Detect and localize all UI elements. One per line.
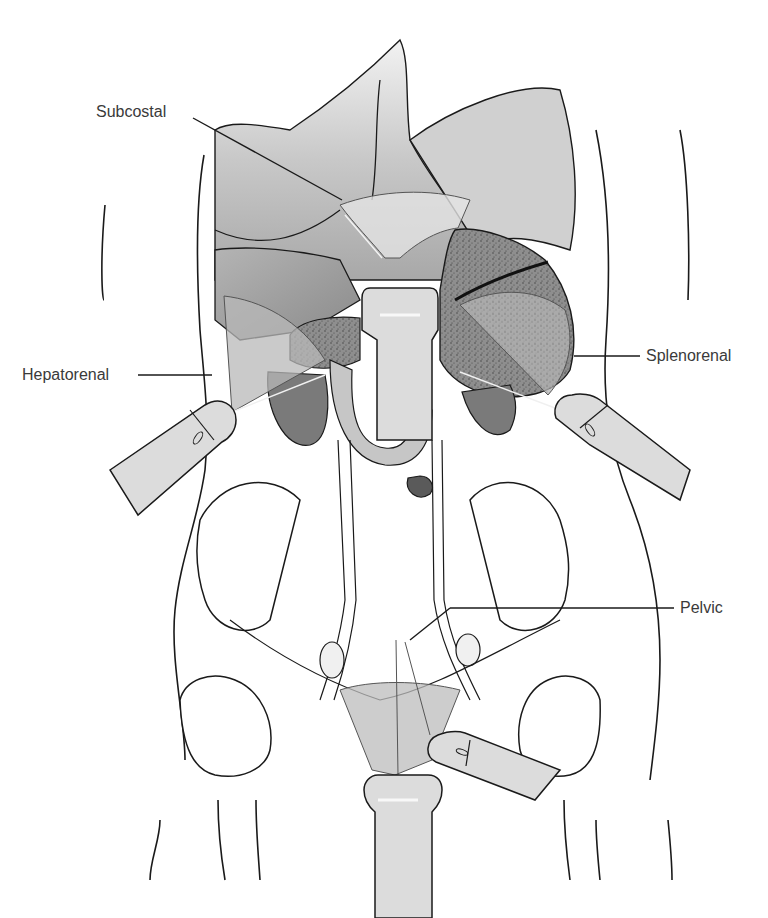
probe-central-lower xyxy=(364,775,442,918)
label-splenorenal: Splenorenal xyxy=(646,348,731,364)
anatomical-diagram: Subcostal Hepatorenal Splenorenal Pelvic xyxy=(0,0,768,918)
label-pelvic: Pelvic xyxy=(680,600,723,616)
sigmoid xyxy=(407,476,432,497)
left-kidney xyxy=(462,385,516,435)
probe-splenorenal xyxy=(555,394,690,500)
label-subcostal: Subcostal xyxy=(96,104,166,120)
probe-central-upper xyxy=(362,288,438,440)
illustration-canvas xyxy=(0,0,768,918)
label-hepatorenal: Hepatorenal xyxy=(22,367,109,383)
